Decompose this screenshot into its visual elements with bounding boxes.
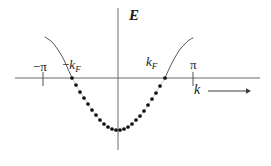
filled-state-dot [130,122,134,126]
kf-subscript: F [75,64,81,74]
filled-state-dot [110,127,114,131]
filled-state-dot [150,97,154,101]
filled-state-dot [138,114,142,118]
label-kf: kF [146,55,157,71]
band-structure-figure: E k −π π −kF kF [0,0,271,166]
tick-label-minus-pi: −π [33,60,47,73]
filled-state-dot [142,109,146,113]
axis-lines [15,8,260,150]
k-axis-arrow [208,88,251,94]
filled-state-dot [126,125,130,129]
filled-state-dot [90,108,94,112]
kf-subscript: F [152,61,158,71]
filled-state-dot [70,76,74,80]
filled-state-dot [122,127,126,131]
filled-state-dot [106,125,110,129]
dispersion-band-empty-right [165,38,193,78]
filled-state-dot [158,84,162,88]
k-arrow-head [246,88,251,94]
tick-label-pi: π [190,58,197,71]
filled-state-dot [78,90,82,94]
filled-state-dot [118,128,122,132]
figure-canvas [0,0,271,166]
filled-state-dot [154,91,158,95]
filled-state-dot [114,128,118,132]
filled-state-dot [94,113,98,117]
filled-state-dot [134,118,138,122]
wavevector-axis-label: k [194,83,200,97]
filled-state-dot [74,83,78,87]
filled-state-dot [163,76,167,80]
energy-axis-label: E [129,8,139,23]
filled-state-dot [86,102,90,106]
filled-state-dot [102,122,106,126]
filled-state-dot [98,118,102,122]
label-minus-kf: −kF [62,58,81,74]
filled-state-dot [82,96,86,100]
filled-state-dot [146,103,150,107]
dispersion-curves [45,37,193,130]
